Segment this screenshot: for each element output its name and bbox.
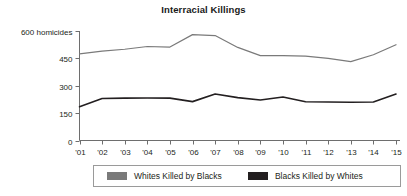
series-line-blacks-killed-by-whites — [80, 94, 397, 107]
chart-container: Interracial Killings 0150300450600 homic… — [0, 0, 407, 196]
legend-item-blacks-killed-by-whites: Blacks Killed by Whites — [248, 166, 363, 186]
y-tick-label: 450 — [59, 55, 73, 64]
x-tick-label: '06 — [188, 148, 199, 157]
legend-swatch-black — [248, 172, 268, 180]
x-tick-label: '03 — [120, 148, 131, 157]
x-tick-label: '01 — [75, 148, 86, 157]
x-tick-label: '07 — [210, 148, 221, 157]
y-tick-label: 300 — [59, 83, 73, 92]
legend-swatch-gray — [107, 172, 127, 180]
x-tick-label: '04 — [142, 148, 153, 157]
legend-label-blacks-killed-by-whites: Blacks Killed by Whites — [275, 171, 363, 181]
x-tick-label: '13 — [346, 148, 357, 157]
y-tick-label: 0 — [68, 138, 73, 147]
x-axis-ticks — [81, 141, 397, 145]
x-tick-label: '08 — [233, 148, 244, 157]
x-tick-label: '14 — [368, 148, 379, 157]
chart-legend: Whites Killed by Blacks Blacks Killed by… — [93, 165, 401, 187]
y-axis-tick-labels: 0150300450600 homicides — [21, 28, 73, 147]
x-tick-label: '10 — [278, 148, 289, 157]
x-tick-label: '11 — [302, 148, 312, 157]
x-tick-label: '05 — [165, 148, 176, 157]
y-tick-label: 150 — [59, 110, 73, 119]
x-tick-label: '12 — [323, 148, 334, 157]
legend-item-whites-killed-by-blacks: Whites Killed by Blacks — [107, 166, 222, 186]
x-tick-label: '15 — [391, 148, 402, 157]
y-tick-label: 600 homicides — [21, 28, 73, 37]
x-axis-tick-labels: '01'02'03'04'05'06'07'08'09'10'11'12'13'… — [75, 148, 402, 157]
series-line-whites-killed-by-blacks — [80, 35, 397, 62]
y-axis-ticks — [76, 32, 80, 142]
legend-label-whites-killed-by-blacks: Whites Killed by Blacks — [134, 171, 222, 181]
series-lines — [80, 35, 397, 107]
x-tick-label: '09 — [255, 148, 266, 157]
x-tick-label: '02 — [97, 148, 108, 157]
